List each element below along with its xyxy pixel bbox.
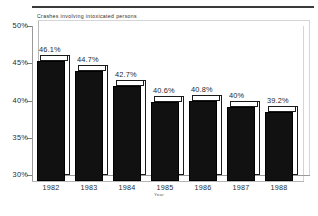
x-axis-category-label: 1982 bbox=[31, 183, 71, 192]
bar-value-label: 40% bbox=[229, 91, 244, 100]
x-axis-category-label: 1987 bbox=[221, 183, 261, 192]
x-axis-title: Year bbox=[0, 192, 318, 197]
bar-front-face bbox=[37, 61, 65, 181]
bar-value-label: 42.7% bbox=[115, 70, 137, 79]
bar-front-face bbox=[75, 71, 103, 181]
bar-front-face bbox=[151, 102, 179, 181]
x-axis-category-label: 1988 bbox=[259, 183, 299, 192]
bar-value-label: 39.2% bbox=[267, 96, 289, 105]
chart-figure: Crashes involving intoxicated persons 50… bbox=[0, 0, 318, 216]
bar-front-face bbox=[113, 86, 141, 181]
bar-value-label: 44.7% bbox=[77, 55, 99, 64]
bar-front-face bbox=[227, 107, 255, 182]
x-axis-category-label: 1985 bbox=[145, 183, 185, 192]
x-axis-category-label: 1986 bbox=[183, 183, 223, 192]
bar-value-label: 40.8% bbox=[191, 85, 213, 94]
cut-off-caption bbox=[26, 211, 296, 216]
bar-value-label: 46.1% bbox=[39, 45, 61, 54]
bar-series: 46.1%198244.7%198342.7%198440.6%198540.8… bbox=[0, 0, 318, 216]
bar-value-label: 40.6% bbox=[153, 86, 175, 95]
x-axis-category-label: 1983 bbox=[69, 183, 109, 192]
bar-front-face bbox=[189, 101, 217, 181]
x-axis-category-label: 1984 bbox=[107, 183, 147, 192]
bar-front-face bbox=[265, 112, 293, 181]
